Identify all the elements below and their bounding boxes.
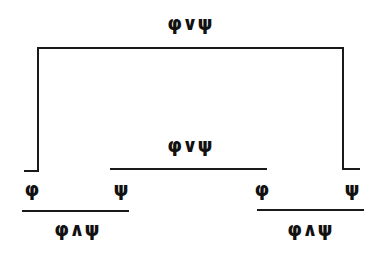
middle-inference-line — [110, 168, 267, 170]
middle-formula-label: φ∨ψ — [167, 136, 212, 155]
leaf-phi-right: φ — [255, 180, 270, 199]
leaf-psi-left: ψ — [113, 180, 128, 199]
bracket-left-line — [37, 47, 39, 172]
bracket-right-foot — [342, 168, 360, 170]
leaf-phi-left: φ — [25, 180, 40, 199]
leaf-psi-right: ψ — [344, 180, 359, 199]
bracket-top-line — [37, 47, 344, 49]
left-inference-line — [22, 210, 129, 212]
bracket-right-line — [342, 47, 344, 170]
right-inference-line — [257, 209, 364, 211]
left-conclusion-label: φ∧ψ — [54, 220, 99, 239]
right-conclusion-label: φ∧ψ — [287, 220, 332, 239]
top-formula-label: φ∨ψ — [167, 14, 212, 33]
bracket-left-foot — [24, 170, 39, 172]
